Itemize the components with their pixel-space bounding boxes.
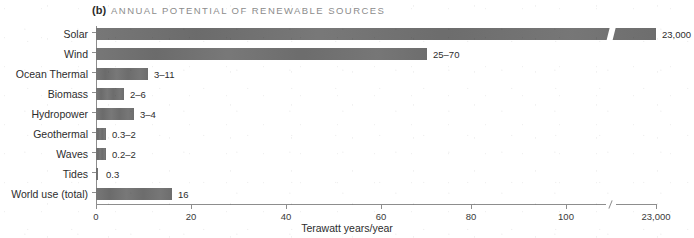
bar-wind [96, 48, 427, 60]
x-tick-label-23000: 23,000 [641, 211, 670, 222]
value-label-wind: 25–70 [433, 48, 459, 61]
chart-title-text: ANNUAL POTENTIAL OF RENEWABLE SOURCES [111, 5, 385, 16]
category-label-geothermal: Geothermal [33, 128, 88, 141]
value-label-world-use: 16 [178, 188, 189, 201]
value-label-biomass: 2–6 [130, 88, 146, 101]
bar-row-tides: Tides 0.3 [0, 168, 694, 188]
x-tick-label-40: 40 [281, 211, 292, 222]
bar-row-solar: Solar 23,000 [0, 28, 694, 48]
value-label-ocean-thermal: 3–11 [154, 68, 174, 81]
bar-row-waves: Waves 0.2–2 [0, 148, 694, 168]
x-tick-label-80: 80 [466, 211, 477, 222]
bar-biomass [96, 88, 124, 100]
bar-row-biomass: Biomass 2–6 [0, 88, 694, 108]
x-axis-caption: Terawatt years/year [0, 222, 694, 234]
bar-row-ocean-thermal: Ocean Thermal 3–11 [0, 68, 694, 88]
bar-solar [96, 28, 656, 40]
category-label-tides: Tides [63, 168, 88, 181]
chart-title: (b)ANNUAL POTENTIAL OF RENEWABLE SOURCES [92, 3, 385, 17]
category-label-wind: Wind [64, 48, 88, 61]
category-label-ocean-thermal: Ocean Thermal [16, 68, 88, 81]
category-label-waves: Waves [56, 148, 88, 161]
renewable-potential-bar-chart: (b)ANNUAL POTENTIAL OF RENEWABLE SOURCES… [0, 0, 694, 238]
value-label-waves: 0.2–2 [112, 148, 136, 161]
x-tick-label-0: 0 [93, 211, 98, 222]
bar-row-wind: Wind 25–70 [0, 48, 694, 68]
x-tick-label-100: 100 [558, 211, 574, 222]
bar-row-world-use: World use (total) 16 [0, 188, 694, 208]
bar-waves [96, 148, 106, 160]
bar-geothermal [96, 128, 106, 140]
bar-row-hydropower: Hydropower 3–4 [0, 108, 694, 128]
bar-row-geothermal: Geothermal 0.3–2 [0, 128, 694, 148]
category-label-world-use: World use (total) [11, 188, 88, 201]
panel-tag: (b) [92, 4, 106, 16]
value-label-solar: 23,000 [662, 28, 691, 41]
category-label-hydropower: Hydropower [31, 108, 88, 121]
x-tick-label-60: 60 [376, 211, 387, 222]
bar-hydropower [96, 108, 134, 120]
value-label-geothermal: 0.3–2 [112, 128, 136, 141]
x-tick-label-20: 20 [186, 211, 197, 222]
bar-ocean-thermal [96, 68, 148, 80]
bar-break-slash-solar [606, 27, 616, 42]
category-label-solar: Solar [63, 28, 88, 41]
value-label-tides: 0.3 [106, 168, 119, 181]
bar-world-use [96, 188, 172, 200]
value-label-hydropower: 3–4 [140, 108, 156, 121]
bar-tides [96, 168, 98, 180]
category-label-biomass: Biomass [48, 88, 88, 101]
